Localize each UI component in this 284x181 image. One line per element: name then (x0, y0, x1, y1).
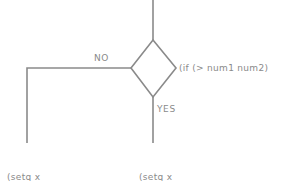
decision-diamond (131, 40, 176, 97)
yes-branch-label: YES (157, 104, 176, 115)
yes-branch-action-label: (setq x (- num1 num2)) (139, 147, 215, 181)
no-branch-label: NO (94, 53, 109, 64)
decision-condition-label: (if (> num1 num2) (179, 62, 268, 74)
yes-branch-action-line1: (setq x (139, 171, 215, 181)
flowchart-canvas: NO YES (if (> num1 num2) (setq x (- num2… (0, 0, 284, 181)
no-branch-edge (27, 68, 131, 143)
no-branch-action-line1: (setq x (7, 171, 83, 181)
no-branch-action-label: (setq x (- num2 num1)) (7, 147, 83, 181)
